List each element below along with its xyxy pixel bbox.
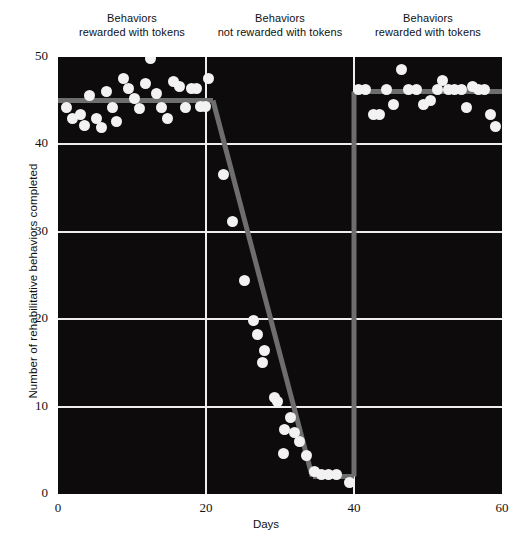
data-point xyxy=(75,109,86,120)
data-point xyxy=(174,81,185,92)
plot-area xyxy=(58,57,502,494)
data-point xyxy=(145,57,156,64)
phase-annotation-3: Behaviors rewarded with tokens xyxy=(353,12,503,39)
y-axis-tick-label: 30 xyxy=(0,223,48,239)
gridline-horizontal xyxy=(58,231,502,233)
data-point xyxy=(294,436,305,447)
data-point xyxy=(203,73,214,84)
data-point xyxy=(257,357,268,368)
data-point xyxy=(425,95,436,106)
data-point xyxy=(461,102,472,113)
phase-annotation-1-line1: Behaviors xyxy=(57,12,207,26)
data-point xyxy=(485,109,496,120)
data-point xyxy=(490,121,501,132)
data-point xyxy=(227,216,238,227)
phase-annotation-1-line2: rewarded with tokens xyxy=(57,26,207,40)
gridline-horizontal xyxy=(58,143,502,145)
y-axis-title: Number of rehabilitative behaviors compl… xyxy=(27,156,39,406)
x-axis-tick-label: 0 xyxy=(28,500,88,516)
data-point xyxy=(331,469,342,480)
data-point xyxy=(411,84,422,95)
data-point xyxy=(396,64,407,75)
data-point xyxy=(134,103,145,114)
y-axis-tick-label: 10 xyxy=(0,398,48,414)
y-axis-tick-label: 0 xyxy=(0,485,48,501)
data-point xyxy=(259,345,270,356)
data-point xyxy=(248,315,259,326)
data-point xyxy=(374,109,385,120)
data-point xyxy=(479,84,490,95)
data-point xyxy=(456,84,467,95)
data-point xyxy=(107,102,118,113)
data-point xyxy=(285,412,296,423)
data-point xyxy=(381,84,392,95)
phase-annotation-2-line1: Behaviors xyxy=(205,12,355,26)
data-point xyxy=(252,329,263,340)
phase-annotation-2-line2: not rewarded with tokens xyxy=(205,26,355,40)
data-point xyxy=(388,99,399,110)
data-point xyxy=(180,102,191,113)
data-point xyxy=(96,122,107,133)
phase-annotation-3-line2: rewarded with tokens xyxy=(353,26,503,40)
data-point xyxy=(101,86,112,97)
data-point xyxy=(140,78,151,89)
x-axis-tick-label: 20 xyxy=(176,500,236,516)
chart-figure: Behaviors rewarded with tokens Behaviors… xyxy=(0,0,532,545)
data-point xyxy=(200,101,211,112)
data-point xyxy=(111,116,122,127)
phase-divider-line xyxy=(205,57,207,494)
y-axis-tick-label: 50 xyxy=(0,48,48,64)
data-point xyxy=(79,120,90,131)
x-axis-title: Days xyxy=(0,518,532,530)
data-point xyxy=(191,83,202,94)
phase-annotation-2: Behaviors not rewarded with tokens xyxy=(205,12,355,39)
y-axis-tick-label: 40 xyxy=(0,135,48,151)
data-point xyxy=(162,113,173,124)
phase-annotation-1: Behaviors rewarded with tokens xyxy=(57,12,207,39)
trend-line-segment xyxy=(211,100,315,477)
data-point xyxy=(61,102,72,113)
data-point xyxy=(129,93,140,104)
phase-annotation-3-line1: Behaviors xyxy=(353,12,503,26)
x-axis-tick-label: 60 xyxy=(472,500,532,516)
x-axis-tick-label: 40 xyxy=(324,500,384,516)
data-point xyxy=(156,102,167,113)
data-point xyxy=(218,169,229,180)
gridline-horizontal xyxy=(58,318,502,320)
data-point xyxy=(278,448,289,459)
data-point xyxy=(239,275,250,286)
trend-line-segment xyxy=(352,92,357,477)
y-axis-tick-label: 20 xyxy=(0,310,48,326)
